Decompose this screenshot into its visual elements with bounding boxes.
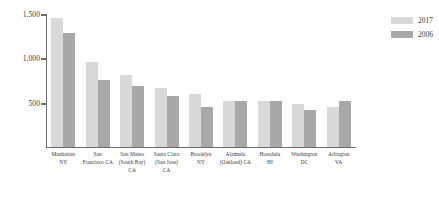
y-axis-tick-label: 1,500 (23, 10, 40, 19)
x-axis-category-labels: ManhattanNYSanFrancisco CASan Mateo(Sout… (46, 151, 356, 174)
bar-group (46, 14, 80, 147)
x-axis-category-label: SanFrancisco CA (80, 151, 114, 174)
bar-group (149, 14, 183, 147)
x-axis-category-label: San Mateo(South Bay) CA (115, 151, 149, 174)
bar-2006 (304, 110, 316, 147)
bar-2017 (223, 101, 235, 147)
bar-2017 (86, 62, 98, 147)
category-label-line: San Mateo (116, 151, 148, 159)
category-label-line: CA (150, 167, 182, 175)
bar-2006 (167, 96, 179, 147)
category-label-line: Brooklyn (185, 151, 217, 159)
bar-2017 (327, 107, 339, 147)
category-label-line: Honolulu (254, 151, 286, 159)
bar-group (115, 14, 149, 147)
bar-groups (46, 14, 356, 147)
category-label-line: Washington (288, 151, 320, 159)
legend-swatch (391, 31, 413, 38)
category-label-line: NY (185, 159, 217, 167)
legend-item: 2006 (391, 30, 433, 39)
x-axis-category-label: Alameda(Oakland) CA (218, 151, 252, 174)
bar-2017 (258, 101, 270, 147)
plot-area: 5001,0001,500 (46, 14, 356, 148)
legend-label: 2017 (418, 16, 433, 25)
bar-chart: 5001,0001,500 0 ManhattanNYSanFrancisco … (0, 0, 439, 199)
x-axis-category-label: BrooklynNY (184, 151, 218, 174)
chart-legend: 20172006 (391, 16, 433, 44)
category-label-line: Alameda (219, 151, 251, 159)
bar-2006 (339, 101, 351, 147)
bar-2006 (270, 101, 282, 147)
bar-2006 (235, 101, 247, 147)
bar-group (218, 14, 252, 147)
x-axis-category-label: Santa Clara(San Jose)CA (149, 151, 183, 174)
bar-2017 (51, 18, 63, 147)
legend-label: 2006 (418, 30, 433, 39)
x-axis-category-label: WashingtonDC (287, 151, 321, 174)
category-label-line: (Oakland) CA (219, 159, 251, 167)
category-label-line: Francisco CA (81, 159, 113, 167)
bar-2006 (63, 33, 75, 147)
x-axis-category-label: ArlingtonVA (322, 151, 356, 174)
legend-swatch (391, 17, 413, 24)
category-label-line: DC (288, 159, 320, 167)
bar-2006 (201, 107, 213, 147)
category-label-line: Arlington (323, 151, 355, 159)
bar-2006 (132, 86, 144, 147)
bar-2017 (292, 104, 304, 147)
bar-2017 (155, 88, 167, 147)
category-label-line: HI (254, 159, 286, 167)
category-label-line: (San Jose) (150, 159, 182, 167)
x-axis-category-label: HonoluluHI (253, 151, 287, 174)
bar-group (287, 14, 321, 147)
x-axis-category-label: ManhattanNY (46, 151, 80, 174)
bar-2006 (98, 80, 110, 147)
bar-group (253, 14, 287, 147)
y-axis-tick-label: 1,000 (23, 54, 40, 63)
y-axis-tick-label: 500 (28, 98, 40, 107)
bar-2017 (120, 75, 132, 147)
bar-group (80, 14, 114, 147)
bar-2017 (189, 94, 201, 147)
category-label-line: Manhattan (47, 151, 79, 159)
bar-group (322, 14, 356, 147)
category-label-line: NY (47, 159, 79, 167)
category-label-line: Santa Clara (150, 151, 182, 159)
legend-item: 2017 (391, 16, 433, 25)
category-label-line: VA (323, 159, 355, 167)
x-axis-line (46, 147, 356, 148)
bar-group (184, 14, 218, 147)
category-label-line: San (81, 151, 113, 159)
category-label-line: (South Bay) CA (116, 159, 148, 175)
